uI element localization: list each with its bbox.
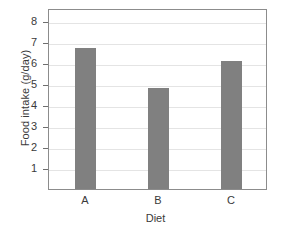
bar-chart-figure: Food intake (g/day) 12345678 ABC Diet — [0, 0, 285, 231]
x-axis-ticks: ABC — [0, 0, 285, 231]
x-tick-label: A — [65, 194, 105, 206]
x-tick-label: B — [138, 194, 178, 206]
x-axis-title: Diet — [48, 212, 263, 224]
x-tick-label: C — [211, 194, 251, 206]
